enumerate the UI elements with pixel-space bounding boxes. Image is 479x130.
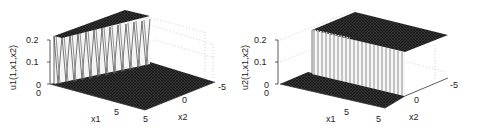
x1-axis-label: x1 [91, 114, 101, 124]
z-tick-0.2: 0.2 [254, 35, 267, 45]
x2-axis-label: x2 [409, 112, 419, 122]
z-axis-label: u2(1,x1,x2) [240, 45, 250, 90]
surface-plot-u2: 0.2 0.1 0 0 5 5 0 -5 x1 x2 u2(1,x1,x2) [240, 0, 479, 130]
z-tick-0.1: 0.1 [26, 57, 39, 67]
surface-plot-u1: 0.2 0.1 0 0 5 5 0 -5 x1 x2 u1(1,x1,x2) [0, 0, 240, 130]
x1-tick-5: 5 [344, 107, 349, 117]
x1-tick-0: 0 [36, 88, 41, 98]
x2-tick-0: 0 [414, 95, 419, 105]
x2-tick-0: 0 [182, 95, 187, 105]
plot-canvas: 0.2 0.1 0 0 5 5 0 -5 x1 x2 u1(1,x1,x2) [0, 0, 240, 130]
x1-tick-5: 5 [114, 107, 119, 117]
x1-tick-0: 0 [264, 88, 269, 98]
x2-tick-minus5: -5 [218, 82, 226, 92]
x2-tick-minus5: -5 [450, 80, 458, 90]
x2-tick-5: 5 [376, 114, 381, 124]
z-tick-0.1: 0.1 [254, 57, 267, 67]
x2-tick-5: 5 [143, 114, 148, 124]
x1-axis-label: x1 [326, 114, 336, 124]
axis-x2 [405, 78, 448, 96]
z-tick-0.2: 0.2 [26, 35, 39, 45]
plot-canvas: 0.2 0.1 0 0 5 5 0 -5 x1 x2 u2(1,x1,x2) [240, 0, 479, 130]
x2-axis-label: x2 [178, 112, 188, 122]
z-axis-label: u1(1,x1,x2) [8, 45, 18, 90]
